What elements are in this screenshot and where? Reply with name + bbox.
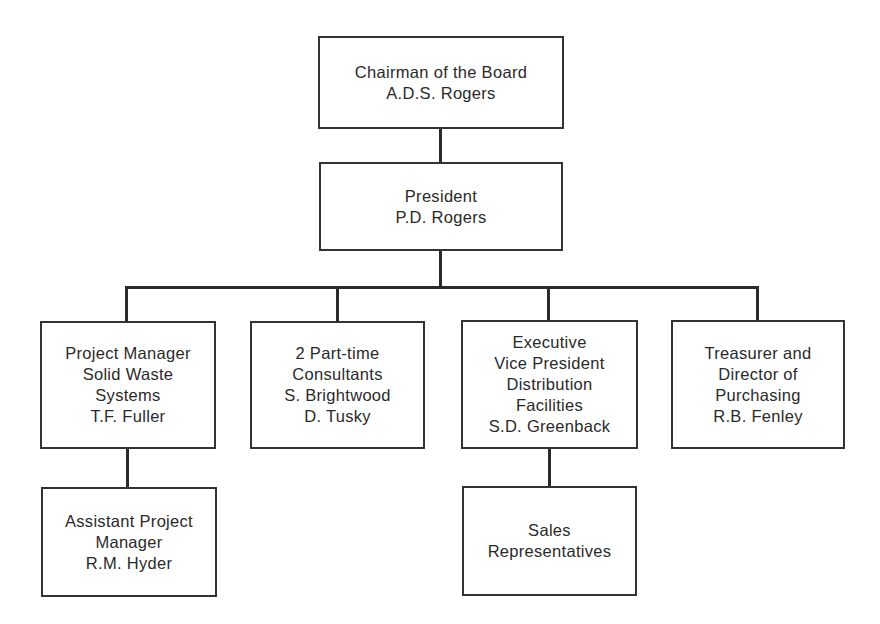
node-title: Chairman of the Board xyxy=(355,62,527,83)
node-title: Project Manager xyxy=(65,343,191,364)
node-title: Representatives xyxy=(488,541,612,562)
node-title: Treasurer and xyxy=(705,343,812,364)
node-title: Facilities xyxy=(516,395,583,416)
node-president: President P.D. Rogers xyxy=(319,162,563,251)
node-treasurer: Treasurer and Director of Purchasing R.B… xyxy=(671,320,845,449)
connector-president-bus xyxy=(439,250,442,288)
node-title: Systems xyxy=(95,385,160,406)
node-title: Distribution xyxy=(506,374,592,395)
node-person: S.D. Greenback xyxy=(489,416,611,437)
node-person: T.F. Fuller xyxy=(91,406,166,427)
connector-horizontal-bus xyxy=(125,286,758,289)
connector-bus-exec-vp xyxy=(547,286,550,322)
node-person: R.M. Hyder xyxy=(86,553,172,574)
node-assistant-project-manager: Assistant Project Manager R.M. Hyder xyxy=(41,487,217,597)
node-title: Director of xyxy=(718,364,797,385)
node-person: P.D. Rogers xyxy=(395,207,486,228)
node-exec-vp: Executive Vice President Distribution Fa… xyxy=(461,320,638,449)
node-title: 2 Part-time xyxy=(296,343,380,364)
node-title: Manager xyxy=(95,532,162,553)
connector-bus-treasurer xyxy=(756,286,759,322)
node-title: Assistant Project xyxy=(65,511,193,532)
node-person: R.B. Fenley xyxy=(713,406,803,427)
node-chairman: Chairman of the Board A.D.S. Rogers xyxy=(318,36,564,129)
node-person: D. Tusky xyxy=(304,406,371,427)
node-title: Vice President xyxy=(494,353,604,374)
node-project-manager: Project Manager Solid Waste Systems T.F.… xyxy=(40,321,216,449)
node-consultants: 2 Part-time Consultants S. Brightwood D.… xyxy=(250,321,425,449)
node-title: Sales xyxy=(528,520,571,541)
connector-chairman-president xyxy=(439,128,442,163)
connector-bus-project-manager xyxy=(125,286,128,322)
node-title: Executive xyxy=(512,332,586,353)
node-title: Solid Waste xyxy=(83,364,174,385)
node-title: President xyxy=(405,186,477,207)
node-title: Purchasing xyxy=(715,385,801,406)
connector-bus-consultants xyxy=(336,286,339,322)
node-sales-representatives: Sales Representatives xyxy=(462,486,637,596)
node-person: S. Brightwood xyxy=(284,385,391,406)
node-person: A.D.S. Rogers xyxy=(386,83,495,104)
connector-project-manager-assistant xyxy=(126,448,129,488)
node-title: Consultants xyxy=(292,364,382,385)
connector-exec-vp-sales xyxy=(548,448,551,488)
